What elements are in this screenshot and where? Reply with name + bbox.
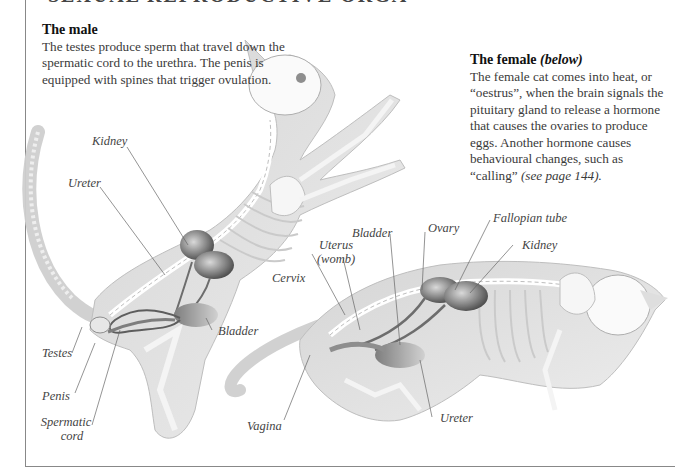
label-male-penis: Penis	[42, 389, 70, 403]
female-description: The female (below) The female cat comes …	[470, 52, 670, 184]
female-body: The female cat comes into heat, or “oest…	[470, 69, 670, 185]
label-female-ureter: Ureter	[440, 411, 473, 425]
label-male-spermatic-cord: Spermatic cord	[40, 415, 92, 443]
label-female-cervix: Cervix	[272, 271, 305, 285]
label-female-fallopian-tube: Fallopian tube	[493, 211, 567, 225]
label-female-kidney: Kidney	[522, 238, 557, 252]
female-title: The female (below)	[470, 52, 670, 69]
label-female-ovary: Ovary	[428, 221, 459, 235]
label-male-ureter: Ureter	[68, 176, 101, 190]
male-description: The male The testes produce sperm that t…	[42, 22, 312, 88]
label-female-vagina: Vagina	[247, 419, 282, 433]
female-cat-drawing	[231, 261, 668, 421]
male-body: The testes produce sperm that travel dow…	[42, 39, 312, 89]
label-female-uterus: Uterus (womb)	[306, 238, 366, 266]
label-male-kidney: Kidney	[92, 134, 127, 148]
label-male-testes: Testes	[42, 346, 72, 360]
male-title: The male	[42, 22, 312, 39]
label-male-bladder: Bladder	[218, 324, 258, 338]
